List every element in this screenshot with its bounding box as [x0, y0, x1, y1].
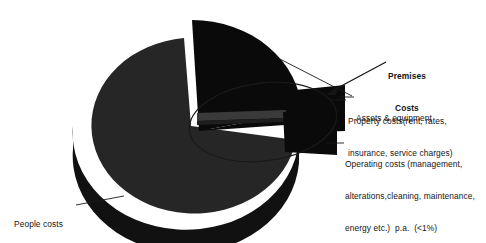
arrow-premises-costs	[326, 62, 386, 95]
pie-label-operating-line1: Operating costs (management,	[345, 159, 475, 170]
pie-label-people-costs: People costs	[14, 198, 63, 243]
pie-label-operating-line2: alterations,cleaning, maintenance,	[345, 191, 475, 202]
pie-chart-figure: Assets & equipment Premises Costs Proper…	[0, 0, 486, 243]
pie-label-people-costs-text: People costs	[14, 219, 63, 230]
pie-label-operating-costs: Operating costs (management, alterations…	[345, 138, 475, 243]
pie-label-operating-line3: energy etc.) p.a. (<1%)	[345, 223, 475, 234]
pie-label-property-line1: Property costs(rent, rates,	[348, 116, 453, 127]
pie-annotation-premises-line1: Premises	[388, 71, 426, 82]
